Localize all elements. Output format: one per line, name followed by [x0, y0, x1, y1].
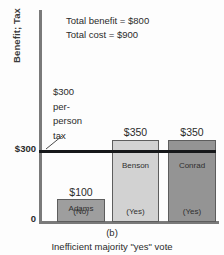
y-axis-line — [39, 10, 42, 223]
tax-note-line-1: $300 — [53, 85, 82, 100]
y-tick-0: 0 — [0, 213, 36, 224]
bar-adams: Adams (No) — [57, 199, 105, 222]
bar-conrad-value: $350 — [168, 126, 216, 138]
totals-annotation: Total benefit = $800 Total cost = $900 — [66, 14, 149, 42]
bar-adams-vote: (No) — [58, 207, 104, 216]
y-axis-label: Benefit; Tax — [11, 0, 22, 76]
tax-note-line-3: person — [53, 114, 82, 129]
per-person-tax-line — [39, 150, 216, 153]
bar-conrad-vote: (Yes) — [169, 207, 215, 216]
bar-conrad-name: Conrad — [169, 161, 215, 170]
figure-caption-label: (b) — [0, 227, 224, 238]
leader-line-icon — [45, 136, 63, 150]
figure-caption-text: Inefficient majority "yes" vote — [0, 241, 224, 252]
y-tick-300: $300 — [0, 143, 36, 154]
tax-note-line-2: per- — [53, 100, 82, 115]
bar-benson-value: $350 — [112, 126, 159, 138]
chart-figure: Benefit; Tax $300 0 Total benefit = $800… — [0, 0, 224, 255]
bar-benson-vote: (Yes) — [113, 207, 158, 216]
total-benefit-text: Total benefit = $800 — [66, 14, 149, 28]
bar-adams-value: $100 — [57, 186, 105, 198]
bar-benson-name: Benson — [113, 161, 158, 170]
per-person-tax-annotation: $300 per- person tax — [53, 85, 82, 143]
total-cost-text: Total cost = $900 — [66, 28, 149, 42]
